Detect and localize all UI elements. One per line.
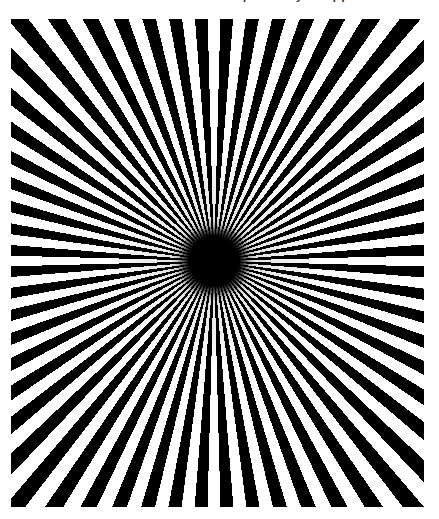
cropped-text-glyphs: partially cropped text line bbox=[243, 0, 433, 2]
starburst-figure bbox=[11, 19, 424, 507]
cropped-text-remnant: partially cropped text line bbox=[0, 0, 439, 9]
ray-convergence-core bbox=[188, 235, 240, 287]
figure-page: partially cropped text line bbox=[0, 0, 439, 519]
